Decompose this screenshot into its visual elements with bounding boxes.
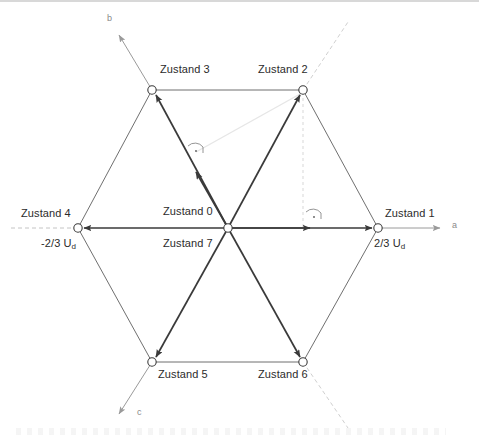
- label-zustand-6: Zustand 6: [258, 369, 308, 380]
- angle-dot-z3: [195, 150, 197, 152]
- label-z4-magnitude-sub: d: [72, 242, 77, 251]
- label-z4-magnitude-text: -2/3 U: [41, 237, 72, 249]
- axis-label-b: b: [107, 14, 112, 23]
- node-z5[interactable]: [148, 358, 156, 366]
- node-z4[interactable]: [74, 224, 82, 232]
- label-zustand-0: Zustand 0: [163, 206, 213, 217]
- label-z1-magnitude-text: 2/3 U: [374, 237, 401, 249]
- hex-edge-z3-z4: [78, 90, 152, 228]
- node-z2[interactable]: [299, 86, 307, 94]
- axis-rays: [119, 35, 440, 414]
- label-zustand-5: Zustand 5: [158, 369, 208, 380]
- angle-arc-z3: [188, 143, 203, 147]
- label-zustand-7: Zustand 7: [163, 238, 213, 249]
- vector-z2: [228, 95, 300, 228]
- label-z1-magnitude-sub: d: [401, 242, 406, 251]
- dashed-ray-lower-right: [303, 362, 348, 428]
- node-z3[interactable]: [148, 86, 156, 94]
- label-zustand-2: Zustand 2: [258, 64, 308, 75]
- hex-edge-z4-z5: [78, 228, 152, 362]
- hex-edge-z6-z1: [303, 228, 378, 362]
- vector-z6: [228, 228, 300, 357]
- axis-ray-c: [119, 362, 152, 414]
- space-vector-diagram: Zustand 3 Zustand 2 Zustand 4 -2/3 Ud Zu…: [0, 0, 479, 437]
- axis-ray-b: [119, 35, 152, 90]
- label-z4-magnitude: -2/3 Ud: [41, 238, 76, 251]
- label-zustand-3: Zustand 3: [160, 64, 210, 75]
- angle-arc-a: [306, 209, 321, 213]
- midhead-z3-vector: [196, 172, 228, 228]
- label-z1-magnitude: 2/3 Ud: [374, 238, 405, 251]
- angle-dot-a: [313, 216, 315, 218]
- dashed-ray-upper-right: [303, 22, 348, 90]
- node-z1[interactable]: [374, 224, 382, 232]
- axis-label-a: a: [452, 221, 457, 230]
- node-z6[interactable]: [299, 358, 307, 366]
- label-zustand-4: Zustand 4: [21, 208, 71, 219]
- vertex-nodes: [74, 86, 382, 366]
- hex-edge-z1-z2: [303, 90, 378, 228]
- node-origin[interactable]: [224, 224, 232, 232]
- footer-caption-cropped: [16, 428, 446, 435]
- label-zustand-1: Zustand 1: [385, 208, 435, 219]
- axis-label-c: c: [137, 408, 142, 417]
